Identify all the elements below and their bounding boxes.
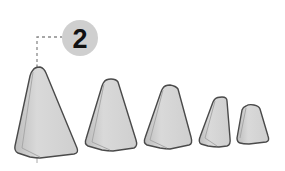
block-1: [15, 67, 78, 158]
block-4: [199, 97, 230, 147]
block-2: [85, 79, 136, 151]
block-3: [144, 85, 191, 149]
diagram-canvas: 2: [0, 0, 285, 171]
callout-number: 2: [72, 24, 87, 54]
callout-badge: 2: [62, 20, 98, 56]
block-5: [237, 105, 269, 144]
